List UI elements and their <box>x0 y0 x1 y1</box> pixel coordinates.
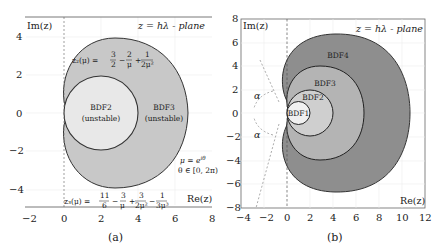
ytick-b-m2: −2 <box>226 131 241 142</box>
svg-text:2: 2 <box>111 60 116 69</box>
svg-text:z₂(μ) =: z₂(μ) = <box>72 56 98 65</box>
bdf4-label-b: BDF4 <box>327 51 349 60</box>
bdf2-unstable-a: (unstable) <box>82 114 121 123</box>
xtick-b-10: 10 <box>396 212 409 223</box>
xtick-a-0: 0 <box>61 213 67 224</box>
figure: Im(z) z = hλ - plane Re(z) 4 2 0 −2 −4 −… <box>0 0 441 250</box>
caption-a: (a) <box>108 231 123 244</box>
ytick-a-0: 0 <box>16 108 22 119</box>
xtick-b-8: 8 <box>376 212 382 223</box>
alpha-label-lower: α <box>254 129 261 140</box>
xtick-b-2: 2 <box>307 212 313 223</box>
xtick-b-0: 0 <box>284 212 290 223</box>
alpha-label-upper: α <box>254 90 261 101</box>
svg-text:2μ²: 2μ² <box>141 60 154 69</box>
xtick-a-2: 2 <box>98 213 104 224</box>
ytick-a-4: 4 <box>16 31 22 42</box>
mu-annotation: μ = eiθ <box>180 155 206 165</box>
svg-text:6: 6 <box>102 201 107 210</box>
xlabel-a: Re(z) <box>187 193 212 204</box>
ytick-b-8: 8 <box>232 13 238 24</box>
bdf3-unstable-a: (unstable) <box>145 114 184 123</box>
bdf1-label-b: BDF1 <box>288 109 310 118</box>
theta-annotation: θ ∈ [0, 2π) <box>178 166 218 175</box>
ytick-b-m6: −6 <box>226 178 241 189</box>
panel-a: Im(z) z = hλ - plane Re(z) 4 2 0 −2 −4 −… <box>9 17 218 244</box>
bdf2-label-b: BDF2 <box>302 93 324 102</box>
svg-text:z₃(μ) =: z₃(μ) = <box>64 197 90 206</box>
svg-text:−: − <box>112 197 118 206</box>
svg-text:1: 1 <box>145 50 150 59</box>
bdf3-label-a: BDF3 <box>153 103 175 112</box>
ytick-b-4: 4 <box>232 60 238 71</box>
xtick-a-6: 6 <box>172 213 178 224</box>
title-b: z = hλ - plane <box>355 23 423 34</box>
ylabel-a: Im(z) <box>27 20 52 31</box>
ylabel-b: Im(z) <box>243 20 268 31</box>
panel-b: α α BDF1 BDF2 BDF3 BDF4 Im(z) z = hλ - p… <box>226 13 432 244</box>
svg-text:3μ³: 3μ³ <box>156 201 169 210</box>
ytick-b-2: 2 <box>232 84 238 95</box>
ytick-b-6: 6 <box>232 37 238 48</box>
xtick-a-4: 4 <box>135 213 141 224</box>
svg-text:3: 3 <box>121 191 126 200</box>
svg-text:11: 11 <box>100 191 110 200</box>
ytick-a-m4: −4 <box>9 184 24 195</box>
ytick-b-m4: −4 <box>226 155 241 166</box>
bdf2-label-a: BDF2 <box>90 103 112 112</box>
svg-text:2: 2 <box>127 50 132 59</box>
svg-text:3: 3 <box>111 50 116 59</box>
bdf2-region-a <box>64 76 138 150</box>
svg-text:−: − <box>149 197 155 206</box>
xtick-b-4: 4 <box>330 212 336 223</box>
svg-text:μ: μ <box>127 60 132 69</box>
ytick-a-2: 2 <box>16 69 22 80</box>
xtick-b-6: 6 <box>353 212 359 223</box>
title-a: z = hλ - plane <box>137 20 205 31</box>
svg-text:1: 1 <box>160 191 165 200</box>
xlabel-b: Re(z) <box>400 195 425 206</box>
xtick-b-12: 12 <box>419 212 432 223</box>
svg-text:3: 3 <box>139 191 144 200</box>
caption-b: (b) <box>327 231 343 244</box>
xtick-a-8: 8 <box>209 213 215 224</box>
svg-text:μ: μ <box>120 201 125 210</box>
ytick-a-m2: −2 <box>9 145 24 156</box>
ytick-b-0: 0 <box>232 108 238 119</box>
xtick-b-m4: −4 <box>236 212 251 223</box>
xtick-a-m2: −2 <box>22 213 37 224</box>
xtick-b-m2: −2 <box>259 212 274 223</box>
bdf3-label-b: BDF3 <box>314 79 336 88</box>
svg-text:2μ²: 2μ² <box>135 201 148 210</box>
svg-text:−: − <box>119 56 125 65</box>
